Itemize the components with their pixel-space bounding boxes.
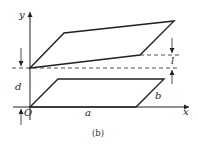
b-label: b bbox=[155, 90, 161, 101]
origin-label: O bbox=[24, 107, 32, 118]
l-label: l bbox=[171, 55, 174, 66]
d-label: d bbox=[15, 81, 21, 92]
a-label: a bbox=[85, 107, 91, 118]
x-axis-label: x bbox=[183, 106, 189, 117]
upper-plate bbox=[30, 21, 174, 68]
y-axis-label: y bbox=[18, 9, 25, 20]
figure-caption: (b) bbox=[92, 128, 104, 138]
lower-plate bbox=[30, 79, 164, 107]
diagram-canvas: y x O d a b l (b) bbox=[0, 0, 198, 145]
